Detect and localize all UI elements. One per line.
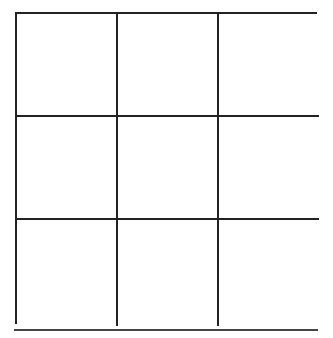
grid-cell-r1-c1 <box>17 14 118 117</box>
grid-cell-r2-c2 <box>118 117 219 220</box>
grid-cell-r2-c3 <box>219 117 319 220</box>
bottom-separator-line <box>14 329 318 331</box>
grid-cell-r1-c3 <box>219 14 319 117</box>
grid-cell-r3-c3 <box>219 220 319 326</box>
grid-cell-r2-c1 <box>17 117 118 220</box>
grid-cell-r3-c1 <box>17 220 118 326</box>
three-by-three-grid <box>15 12 317 324</box>
grid-cell-r1-c2 <box>118 14 219 117</box>
grid-cell-r3-c2 <box>118 220 219 326</box>
